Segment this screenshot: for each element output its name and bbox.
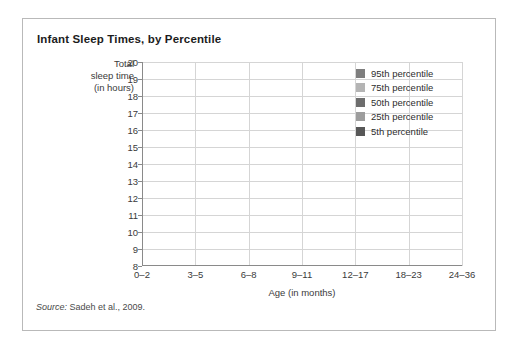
y-axis-tick-label: 13: [112, 176, 138, 187]
y-axis-tick-labels: 891011121314151617181920: [108, 62, 138, 266]
y-axis-tick-label: 19: [112, 74, 138, 85]
x-axis-title: Age (in months): [142, 287, 462, 298]
x-axis-tick-label: 24–36: [449, 269, 475, 280]
x-axis-tick-label: 18–23: [395, 269, 421, 280]
source-label: Source:: [36, 302, 67, 312]
y-axis-tick-label: 17: [112, 108, 138, 119]
y-axis-tick-label: 9: [112, 244, 138, 255]
x-axis-tick-label: 12–17: [342, 269, 368, 280]
y-axis-tick-label: 15: [112, 142, 138, 153]
gridline-vertical: [249, 62, 250, 266]
x-axis-tick-label: 3–5: [187, 269, 203, 280]
y-axis-line: [142, 62, 143, 266]
y-axis-tick-label: 16: [112, 125, 138, 136]
legend-item: 95th percentile: [356, 66, 433, 80]
legend-swatch-icon: [356, 112, 365, 121]
legend-item-label: 50th percentile: [371, 97, 433, 108]
legend-item: 50th percentile: [356, 95, 433, 109]
y-axis-tick-mark: [138, 266, 142, 267]
legend-swatch-icon: [356, 127, 365, 136]
legend-item: 75th percentile: [356, 81, 433, 95]
y-axis-tick-label: 10: [112, 227, 138, 238]
x-axis-tick-labels: 0–23–56–89–1112–1718–2324–36: [142, 269, 462, 283]
legend-item-label: 75th percentile: [371, 82, 433, 93]
gridline-vertical: [302, 62, 303, 266]
x-axis-tick-label: 9–11: [292, 269, 312, 280]
page-title: Infant Sleep Times, by Percentile: [37, 33, 221, 45]
legend-item-label: 5th percentile: [371, 126, 428, 137]
chart-legend: 95th percentile75th percentile50th perce…: [356, 66, 433, 139]
legend-swatch-icon: [356, 83, 365, 92]
source-note: Source: Sadeh et al., 2009.: [36, 302, 145, 312]
legend-swatch-icon: [356, 69, 365, 78]
source-text: Sadeh et al., 2009.: [67, 302, 145, 312]
x-axis-tick-label: 6–8: [241, 269, 257, 280]
legend-item: 5th percentile: [356, 124, 433, 138]
legend-item-label: 25th percentile: [371, 111, 433, 122]
y-axis-tick-label: 18: [112, 91, 138, 102]
y-axis-tick-label: 11: [112, 210, 138, 221]
gridline-vertical: [195, 62, 196, 266]
legend-item: 25th percentile: [356, 110, 433, 124]
y-axis-tick-label: 12: [112, 193, 138, 204]
x-axis-tick-label: 0–2: [134, 269, 150, 280]
y-axis-tick-label: 20: [112, 57, 138, 68]
gridline-vertical: [462, 62, 463, 266]
y-axis-tick-label: 14: [112, 159, 138, 170]
x-axis-line: [142, 265, 462, 267]
legend-item-label: 95th percentile: [371, 68, 433, 79]
legend-swatch-icon: [356, 98, 365, 107]
divider: [23, 319, 495, 320]
